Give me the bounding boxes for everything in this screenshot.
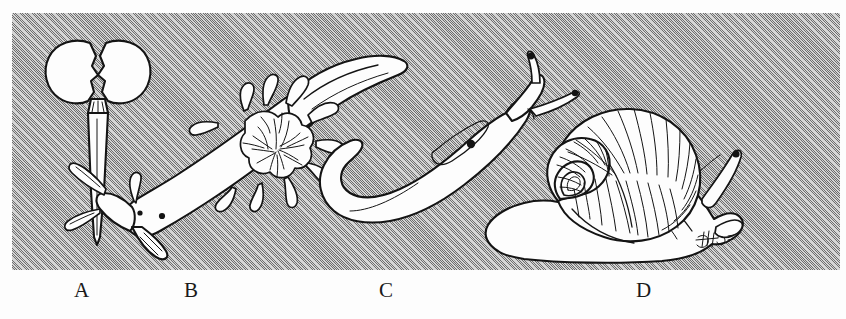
specimen-illustrations: .ink { fill:#fdfdfd; stroke:#141414; str… — [12, 13, 840, 270]
figure-label-c: C — [379, 280, 394, 301]
figure-label-b: B — [184, 280, 199, 301]
figure-label-d: D — [636, 280, 652, 301]
illustration-panel: .ink { fill:#fdfdfd; stroke:#141414; str… — [12, 13, 840, 270]
figure-plate: .ink { fill:#fdfdfd; stroke:#141414; str… — [0, 0, 846, 319]
figure-label-a: A — [74, 280, 90, 301]
figure-label-row: A B C D — [0, 272, 846, 319]
specimen-d-snail — [486, 109, 743, 263]
